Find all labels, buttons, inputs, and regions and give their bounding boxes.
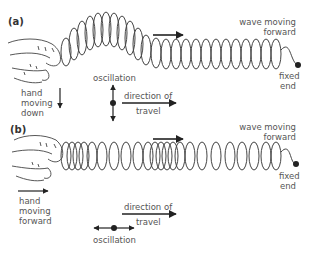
oscillation-label-a: oscillation <box>93 73 136 83</box>
spring-coil-b <box>61 142 294 170</box>
travel-label-a: travel <box>136 106 161 116</box>
direction-label-a: direction of <box>124 91 172 101</box>
fixed-end-label-a: fixed end <box>279 71 300 91</box>
direction-label-b: direction of <box>124 202 172 212</box>
hand-label-a: hand moving down <box>21 88 53 118</box>
wave-label-b: wave moving forward <box>220 122 296 142</box>
hand-icon-a <box>8 39 61 83</box>
wave-label-a: wave moving forward <box>220 17 296 37</box>
hand-icon-b <box>12 136 63 181</box>
panel-label-b: (b) <box>10 124 26 135</box>
fixed-end-dot-a <box>295 62 301 68</box>
panel-label-a: (a) <box>8 16 24 27</box>
hand-label-b: hand moving forward <box>19 196 52 226</box>
fixed-end-dot-b <box>293 161 299 167</box>
oscillation-label-b: oscillation <box>93 235 136 245</box>
fixed-end-label-b: fixed end <box>279 171 300 191</box>
travel-label-b: travel <box>136 217 161 227</box>
